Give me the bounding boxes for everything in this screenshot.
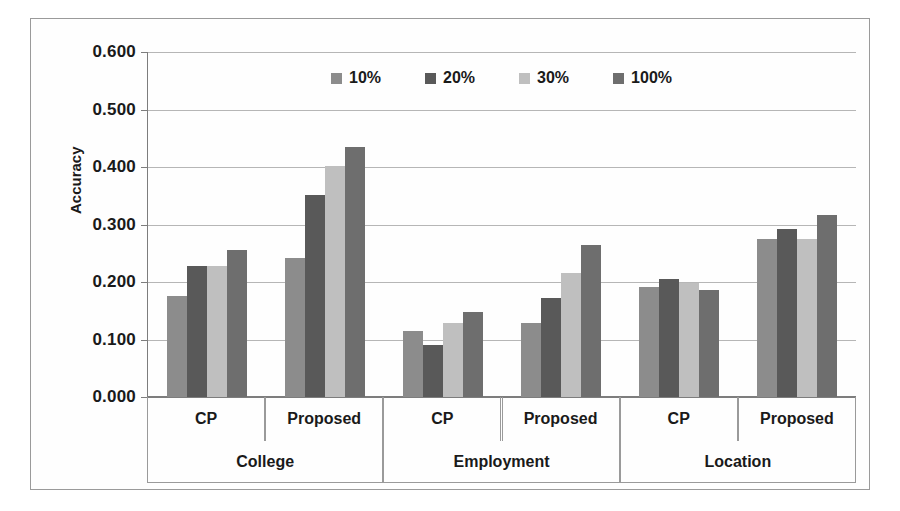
category-sub-label: CP [620,397,738,441]
bar [817,215,837,397]
y-tick-label: 0.500 [92,100,136,120]
bar [443,323,463,397]
y-tick-mark [141,340,148,341]
category-sub-label: CP [147,397,265,441]
bar [345,147,365,397]
bar [187,266,207,397]
category-axis-sub-row: CPProposedCPProposedCPProposed [147,397,856,441]
gridline [148,52,856,53]
bar [581,245,601,397]
y-tick-label: 0.200 [92,272,136,292]
y-tick-label: 0.400 [92,157,136,177]
bar [797,239,817,397]
plot-area: 0.6000.5000.4000.3000.2000.1000.000 [148,52,856,397]
bar-cluster [639,52,719,397]
category-sub-label: Proposed [265,397,383,441]
bar [757,239,777,397]
bar [227,250,247,397]
category-sub-label: Proposed [502,397,620,441]
gridline [148,282,856,283]
bar [463,312,483,397]
gridline [148,167,856,168]
bar [561,273,581,397]
category-axis-main-row: CollegeEmploymentLocation [147,441,856,483]
y-tick-label: 0.100 [92,330,136,350]
bar [639,287,659,397]
y-axis-title: Accuracy [67,146,84,214]
gridline [148,225,856,226]
y-tick-label: 0.300 [92,215,136,235]
y-tick-mark [141,225,148,226]
bar [167,296,187,397]
category-sub-label: CP [383,397,501,441]
gridline [148,110,856,111]
bar [305,195,325,397]
bar-cluster [403,52,483,397]
bar [699,290,719,397]
bar [679,283,699,397]
bar [521,323,541,397]
chart-figure: Accuracy 10%20%30%100% 0.6000.5000.4000.… [30,18,870,490]
category-axis: CPProposedCPProposedCPProposed CollegeEm… [147,397,856,483]
bar [777,229,797,397]
y-tick-mark [141,167,148,168]
y-tick-label: 0.600 [92,42,136,62]
bar-cluster [521,52,601,397]
category-main-label: Employment [383,441,619,483]
bar [207,266,227,397]
bar [285,258,305,397]
bar [403,331,423,397]
bar [659,279,679,397]
y-tick-label: 0.000 [92,387,136,407]
category-main-label: College [147,441,383,483]
y-tick-mark [141,52,148,53]
category-main-label: Location [620,441,856,483]
bar [423,345,443,397]
category-sub-label: Proposed [738,397,856,441]
bar-cluster [285,52,365,397]
bar-cluster [757,52,837,397]
y-tick-mark [141,282,148,283]
gridline [148,340,856,341]
bar-cluster [167,52,247,397]
y-tick-mark [141,110,148,111]
bar [325,166,345,397]
bar [541,298,561,397]
